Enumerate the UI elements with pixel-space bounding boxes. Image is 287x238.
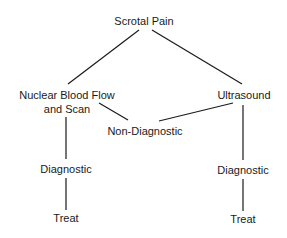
node-nuclear-line1: Nuclear Blood Flow <box>19 89 114 102</box>
node-right-diagnostic: Diagnostic <box>217 164 268 177</box>
diagram-edges <box>0 0 287 238</box>
edge-nuclear-to-nondiagnostic <box>99 103 128 120</box>
edge-root-to-nuclear <box>68 30 139 84</box>
node-left-treat: Treat <box>53 212 78 225</box>
node-nuclear-line2: and Scan <box>44 103 90 116</box>
node-non-diagnostic: Non-Diagnostic <box>107 125 182 138</box>
edge-ultrasound-to-nondiagnostic <box>159 103 233 121</box>
node-ultrasound: Ultrasound <box>217 89 270 102</box>
node-scrotal-pain: Scrotal Pain <box>114 15 173 28</box>
node-left-diagnostic: Diagnostic <box>40 163 91 176</box>
node-right-treat: Treat <box>230 213 255 226</box>
edge-root-to-ultrasound <box>152 30 242 84</box>
